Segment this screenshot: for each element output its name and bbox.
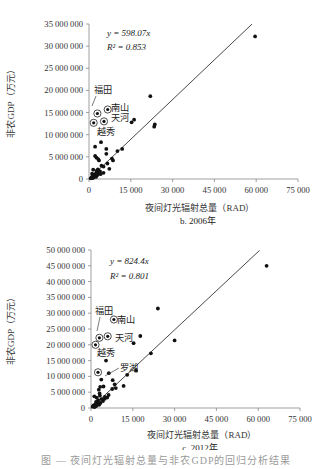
regression-equation: y = 824.4x bbox=[109, 256, 149, 266]
data-point bbox=[113, 382, 117, 386]
data-point bbox=[93, 145, 97, 149]
y-tick-label: 45 000 000 bbox=[46, 261, 85, 271]
district-label: 福田 bbox=[94, 84, 112, 95]
y-tick-label: 50 000 000 bbox=[46, 245, 85, 255]
data-point bbox=[173, 339, 177, 343]
y-axis-title: 非农GDP（万元） bbox=[5, 65, 16, 137]
highlighted-point bbox=[98, 336, 101, 339]
district-label: 越秀 bbox=[97, 126, 115, 137]
data-point bbox=[98, 392, 102, 396]
r-squared-label: R² = 0.801 bbox=[109, 271, 149, 281]
district-label: 天河 bbox=[111, 112, 129, 123]
data-point bbox=[102, 171, 106, 175]
data-point bbox=[110, 387, 114, 391]
highlighted-point bbox=[96, 112, 99, 115]
data-point bbox=[116, 149, 120, 153]
data-point bbox=[130, 120, 134, 124]
district-label: 南山 bbox=[117, 314, 135, 325]
data-point bbox=[95, 170, 99, 174]
y-tick-label: 15 000 000 bbox=[46, 356, 85, 366]
data-point bbox=[138, 334, 142, 338]
x-tick-label: 15 000 bbox=[121, 414, 145, 424]
highlighted-point bbox=[102, 120, 105, 123]
y-tick-label: 10 000 000 bbox=[44, 130, 83, 140]
y-tick-label: 10 000 000 bbox=[46, 371, 85, 381]
x-axis-title: 夜间灯光辐射总量（RAD） bbox=[147, 429, 256, 440]
data-point bbox=[102, 385, 106, 389]
data-point bbox=[152, 125, 156, 129]
y-tick-label: 15 000 000 bbox=[44, 108, 83, 118]
data-point bbox=[125, 373, 129, 377]
district-label: 福田 bbox=[95, 305, 113, 316]
data-point bbox=[97, 388, 101, 392]
data-point bbox=[104, 152, 108, 156]
y-tick-label: 30 000 000 bbox=[44, 41, 83, 51]
district-label: 天河 bbox=[115, 332, 133, 343]
data-point bbox=[97, 159, 101, 163]
highlighted-point bbox=[106, 335, 109, 338]
data-point bbox=[106, 162, 110, 166]
y-tick-label: 25 000 000 bbox=[46, 324, 85, 334]
data-point bbox=[111, 378, 115, 382]
label-leader-line bbox=[97, 317, 100, 331]
district-label: 罗湖 bbox=[120, 363, 138, 373]
data-point bbox=[91, 168, 95, 172]
figure-caption: 图 — 夜间灯光辐射总量与非农GDP的回归分析结果 bbox=[0, 452, 333, 469]
y-tick-label: 30 000 000 bbox=[46, 308, 85, 318]
x-axis-title: 夜间灯光辐射总量（RAD） bbox=[145, 202, 254, 213]
highlighted-point bbox=[106, 108, 109, 111]
data-point bbox=[96, 400, 100, 404]
data-point bbox=[102, 165, 106, 169]
district-label: 越秀 bbox=[97, 347, 115, 358]
data-point bbox=[99, 378, 103, 382]
x-tick-label: 75 000 bbox=[286, 185, 310, 195]
district-label: 南山 bbox=[111, 102, 129, 113]
data-point bbox=[99, 140, 103, 144]
x-tick-label: 0 bbox=[89, 414, 93, 424]
x-tick-label: 0 bbox=[87, 185, 91, 195]
y-tick-label: 35 000 000 bbox=[44, 19, 83, 29]
data-point bbox=[156, 307, 160, 311]
data-point bbox=[107, 167, 111, 171]
y-tick-label: 20 000 000 bbox=[46, 340, 85, 350]
y-tick-label: 0 bbox=[79, 174, 83, 184]
highlighted-point bbox=[94, 343, 97, 346]
x-tick-label: 30 000 bbox=[163, 414, 187, 424]
y-tick-label: 0 bbox=[81, 403, 85, 413]
y-tick-label: 5 000 000 bbox=[49, 152, 83, 162]
x-tick-label: 60 000 bbox=[244, 185, 268, 195]
data-point bbox=[105, 396, 109, 400]
y-axis-title: 非农GDP（万元） bbox=[5, 293, 16, 365]
y-tick-label: 35 000 000 bbox=[46, 292, 85, 302]
data-point bbox=[90, 172, 94, 176]
data-point bbox=[93, 405, 97, 409]
data-point bbox=[148, 94, 152, 98]
chart-2006-svg: 05 000 00010 000 00015 000 00020 000 000… bbox=[0, 0, 333, 226]
panel-label: c. 2012年 bbox=[182, 442, 218, 450]
panel-label: b. 2006年 bbox=[180, 215, 216, 226]
data-point bbox=[114, 386, 118, 390]
data-point bbox=[104, 147, 108, 151]
highlighted-point bbox=[92, 121, 95, 124]
chart-2012-svg: 05 000 00010 000 00015 000 00020 000 000… bbox=[0, 226, 333, 450]
data-point bbox=[253, 35, 257, 39]
data-point bbox=[120, 147, 124, 151]
regression-equation: y = 598.07x bbox=[106, 28, 150, 38]
scatter-chart-2006: 05 000 00010 000 00015 000 00020 000 000… bbox=[0, 0, 333, 226]
y-tick-label: 5 000 000 bbox=[51, 387, 85, 397]
data-point bbox=[149, 351, 153, 355]
data-point bbox=[92, 394, 96, 398]
scatter-chart-2012: 05 000 00010 000 00015 000 00020 000 000… bbox=[0, 226, 333, 450]
y-tick-label: 20 000 000 bbox=[44, 85, 83, 95]
r-squared-label: R² = 0.853 bbox=[106, 42, 147, 52]
highlighted-point bbox=[112, 318, 115, 321]
data-point bbox=[122, 384, 126, 388]
x-tick-label: 75 000 bbox=[288, 414, 312, 424]
data-point bbox=[104, 359, 108, 363]
label-leader-line bbox=[92, 96, 96, 106]
x-tick-label: 45 000 bbox=[203, 185, 227, 195]
x-tick-label: 45 000 bbox=[205, 414, 229, 424]
highlighted-point bbox=[96, 371, 99, 374]
data-point bbox=[89, 176, 93, 180]
data-point bbox=[111, 159, 115, 163]
